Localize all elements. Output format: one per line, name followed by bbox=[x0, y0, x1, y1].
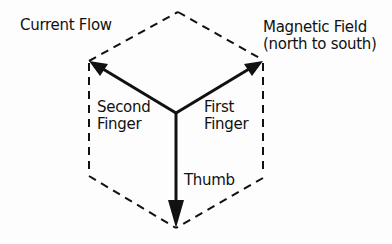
fleming-left-hand-rule-diagram: Current Flow Magnetic Field (north to so… bbox=[0, 0, 392, 244]
thumb-label: Thumb bbox=[184, 172, 235, 188]
current-flow-label: Current Flow bbox=[20, 17, 112, 33]
magnetic-field-sublabel: (north to south) bbox=[263, 36, 377, 52]
second-finger-label-line2: Finger bbox=[97, 116, 141, 132]
thumb-arrow bbox=[168, 113, 184, 228]
second-finger-label-line1: Second bbox=[97, 99, 150, 115]
first-finger-label-line2: Finger bbox=[204, 116, 248, 132]
magnetic-field-label: Magnetic Field bbox=[263, 19, 367, 35]
first-finger-label-line1: First bbox=[204, 99, 234, 115]
